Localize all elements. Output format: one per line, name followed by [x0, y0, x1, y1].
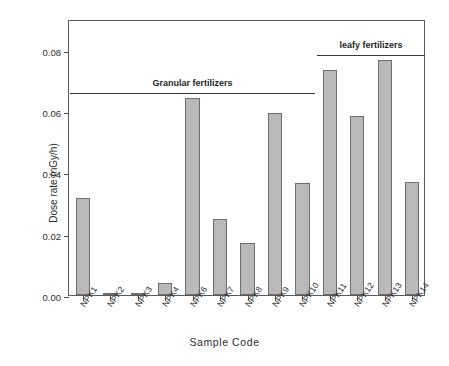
plot-area: 0.000.020.040.060.08 Granular fertilizer…: [68, 20, 425, 296]
bars-layer: [69, 21, 424, 295]
chart-figure: Dose rate (nGy/h) Sample Code 0.000.020.…: [0, 0, 449, 366]
group-rule: [317, 55, 425, 56]
y-axis-title: Dose rate (nGy/h): [48, 143, 59, 222]
bar-NPK13: [378, 60, 392, 295]
y-tick-label: 0.02: [43, 230, 62, 241]
bar-NPK9: [268, 113, 282, 295]
y-tick-label: 0.00: [43, 292, 62, 303]
bar-NPK12: [350, 116, 364, 295]
bar-NPK1: [76, 198, 90, 295]
bar-NPK6: [185, 98, 199, 295]
y-tick-label: 0.08: [43, 46, 62, 57]
bar-NPK7: [213, 219, 227, 295]
y-tick-mark: [64, 297, 69, 298]
y-tick-label: 0.04: [43, 169, 62, 180]
bar-NPK14: [405, 182, 419, 295]
x-axis-title: Sample Code: [0, 336, 449, 348]
bar-NPK11: [323, 70, 337, 295]
group-label: leafy fertilizers: [340, 40, 403, 50]
group-rule: [70, 93, 315, 94]
y-tick-label: 0.06: [43, 108, 62, 119]
group-label: Granular fertilizers: [153, 78, 233, 88]
bar-NPK10: [295, 183, 309, 295]
